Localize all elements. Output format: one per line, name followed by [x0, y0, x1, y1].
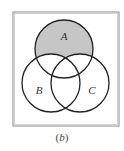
shaded-region-a-only — [0, 0, 124, 151]
venn-diagram: A B C — [0, 0, 124, 151]
caption-close-paren: ) — [65, 131, 69, 143]
venn-diagram-figure: A B C (b) — [0, 0, 124, 151]
set-c-label: C — [88, 84, 96, 96]
figure-caption: (b) — [0, 131, 124, 143]
set-b-label: B — [36, 84, 43, 96]
set-a-label: A — [60, 30, 68, 42]
